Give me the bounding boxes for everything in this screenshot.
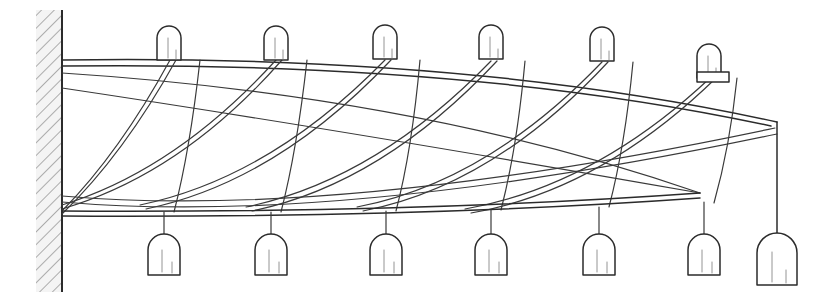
top-post-2 xyxy=(264,26,288,60)
top-post-1 xyxy=(157,26,181,60)
bottom-post-6 xyxy=(688,202,720,275)
wall-hatching xyxy=(36,10,62,292)
bottom-posts-group xyxy=(148,202,797,285)
hanger-curve-5 xyxy=(609,62,633,207)
bottom-post-1 xyxy=(148,212,180,275)
bottom-post-3 xyxy=(370,211,402,275)
top-post-6-flange xyxy=(697,72,729,82)
wall-group xyxy=(36,10,62,292)
hanger-curve-2 xyxy=(281,60,307,212)
top-posts-group xyxy=(157,25,729,82)
figure-drawing xyxy=(0,0,815,302)
top-post-6 xyxy=(697,44,729,82)
bottom-post-5 xyxy=(583,207,615,275)
ascending-arc-group xyxy=(62,73,777,207)
ascending-arc-2 xyxy=(62,88,700,193)
cable-pair-6-a xyxy=(465,78,710,209)
bottom-post-4 xyxy=(475,210,507,275)
cable-pair-6-b xyxy=(471,78,716,213)
hanger-curve-6 xyxy=(714,78,737,203)
hanger-curve-4 xyxy=(501,61,525,210)
bottom-post-2 xyxy=(255,212,287,275)
bottom-post-7 xyxy=(757,233,797,285)
top-post-3 xyxy=(373,25,397,59)
technical-figure-canvas: Wall-mounted suspended rail assembly xyxy=(0,0,815,302)
top-post-4 xyxy=(479,25,503,59)
top-post-5 xyxy=(590,27,614,61)
cable-pair-1-b xyxy=(62,60,176,214)
descending-cable-group xyxy=(62,60,716,214)
